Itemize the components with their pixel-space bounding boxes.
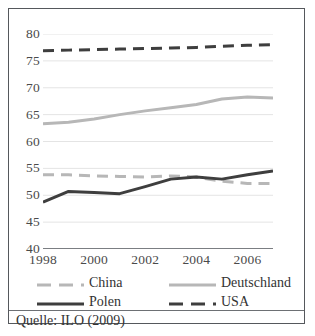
x-axis: 19982000200220042006 xyxy=(43,252,273,272)
series-line-deutschland xyxy=(43,97,273,124)
legend-swatch-deutschland xyxy=(169,277,216,289)
chart-figure: 404550556065707580 19982000200220042006 … xyxy=(8,8,305,324)
y-tick-label: 65 xyxy=(14,108,40,122)
x-tick-label: 1998 xyxy=(20,252,66,267)
y-tick-label: 80 xyxy=(14,27,40,41)
x-tick-label: 2002 xyxy=(122,252,168,267)
legend-item-usa[interactable]: USA xyxy=(169,292,249,311)
plot-area xyxy=(43,34,273,249)
x-tick-label: 2000 xyxy=(71,252,117,267)
legend-swatch-polen xyxy=(37,296,84,308)
y-tick-label: 50 xyxy=(14,188,40,202)
legend-swatch-china xyxy=(37,277,84,289)
legend-item-deutschland[interactable]: Deutschland xyxy=(169,273,291,292)
y-tick-label: 55 xyxy=(14,161,40,175)
chart-legend: ChinaDeutschlandPolenUSA xyxy=(21,273,293,311)
legend-label: USA xyxy=(221,294,249,309)
y-tick-label: 60 xyxy=(14,135,40,149)
legend-swatch-usa xyxy=(169,296,216,308)
y-tick-label: 45 xyxy=(14,215,40,229)
y-tick-label: 70 xyxy=(14,81,40,95)
y-tick-label: 75 xyxy=(14,54,40,68)
legend-label: Deutschland xyxy=(221,275,291,290)
x-tick-label: 2006 xyxy=(224,252,270,267)
legend-label: China xyxy=(89,275,122,290)
legend-item-polen[interactable]: Polen xyxy=(37,292,121,311)
source-note: Quelle: ILO (2009) xyxy=(16,312,125,329)
series-line-usa xyxy=(43,45,273,51)
x-tick-label: 2004 xyxy=(173,252,219,267)
legend-item-china[interactable]: China xyxy=(37,273,122,292)
y-axis: 404550556065707580 xyxy=(9,34,40,249)
chart-plot-svg xyxy=(43,34,273,249)
source-divider xyxy=(9,310,304,311)
legend-label: Polen xyxy=(89,294,121,309)
